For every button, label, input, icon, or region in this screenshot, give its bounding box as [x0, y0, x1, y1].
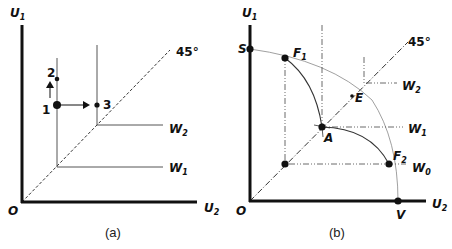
indifference-curve-w2: [97, 45, 163, 125]
panel-b-caption: (b): [329, 225, 345, 240]
point-s: [246, 45, 253, 52]
w2-label: W2: [402, 79, 421, 95]
point-a: [318, 123, 325, 130]
point-f2: [385, 160, 392, 167]
point-f2-label: F2: [393, 149, 407, 165]
point-f1-label: F1: [293, 46, 307, 62]
w1-label: W1: [169, 161, 188, 177]
diagonal-line: [250, 42, 408, 201]
w0-label: W0: [412, 161, 431, 177]
rawlsian-curve-w0: [285, 56, 406, 164]
panel-a: U1 U2 O 45° W1 W2 1 2 3 (a): [8, 6, 220, 240]
panel-a-caption: (a): [105, 225, 121, 240]
y-axis-label: U1: [10, 6, 25, 22]
point-a-label: A: [323, 131, 333, 145]
diagonal-label: 45°: [176, 45, 199, 59]
indifference-curve-w1: [57, 58, 163, 167]
diagonal-line: [22, 50, 170, 202]
rawlsian-curve-w1: [322, 25, 403, 127]
point-2: [55, 77, 60, 82]
point-1: [53, 101, 61, 109]
point-s-label: S: [238, 42, 247, 56]
point-v-label: V: [396, 208, 407, 222]
w2-label: W2: [169, 122, 188, 138]
w1-label: W1: [408, 122, 427, 138]
point-2-label: 2: [47, 66, 55, 80]
point-e-label: E: [355, 91, 364, 105]
x-axis-label: U2: [204, 201, 220, 217]
point-e: [350, 94, 354, 98]
indifference-curve-w1-smooth: [285, 58, 389, 164]
point-1-label: 1: [42, 103, 50, 117]
point-3-label: 3: [103, 98, 111, 112]
x-axis-label: U2: [432, 197, 448, 213]
point-3: [94, 102, 99, 107]
welfare-diagram: U1 U2 O 45° W1 W2 1 2 3 (a): [0, 0, 452, 249]
y-axis-label: U1: [242, 6, 257, 22]
arrow-right-icon: [83, 101, 90, 109]
point-w0-corner: [281, 160, 288, 167]
diagonal-label: 45°: [408, 35, 431, 49]
arrow-up-icon: [46, 81, 54, 88]
point-v: [394, 197, 401, 204]
point-f1: [281, 54, 288, 61]
origin-label: O: [8, 204, 18, 218]
panel-b: U1 U2 O 45° W2 W1 W0 S F1 A E F2 V (b): [236, 6, 448, 240]
origin-label: O: [236, 204, 246, 218]
